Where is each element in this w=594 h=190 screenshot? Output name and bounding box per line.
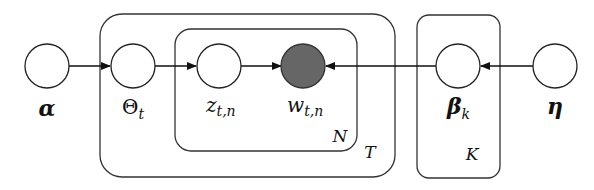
label-beta: βk — [446, 93, 470, 122]
label-theta: Θt — [122, 95, 144, 122]
node-beta — [436, 44, 480, 88]
label-w: wt,n — [287, 93, 323, 119]
node-theta — [111, 44, 155, 88]
node-alpha — [25, 44, 69, 88]
label-z: zt,n — [205, 93, 236, 119]
plate-label-T: T — [364, 142, 377, 162]
plate-label-K: K — [465, 144, 480, 164]
node-w-observed — [281, 44, 325, 88]
plate-diagram: α Θt zt,n wt,n βk η N T K — [0, 0, 594, 190]
label-eta: η — [547, 93, 563, 119]
plate-label-N: N — [332, 126, 349, 146]
plate-T — [100, 14, 395, 177]
plate-N — [175, 29, 357, 151]
node-eta — [533, 44, 577, 88]
node-z — [197, 44, 241, 88]
label-alpha: α — [39, 95, 56, 121]
